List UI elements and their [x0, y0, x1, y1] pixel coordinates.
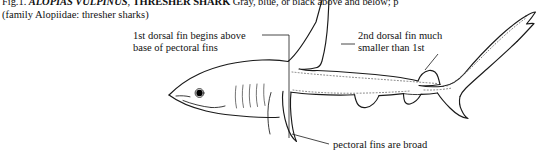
- flank-shading-tail: [447, 18, 526, 86]
- caudal-fin-upper-lobe-tip: [517, 12, 536, 42]
- leader-line-dorsal-fin-1: [262, 35, 289, 138]
- gill-slit-5: [264, 84, 265, 106]
- gill-slit-2: [242, 85, 243, 108]
- shark-body: [169, 0, 536, 142]
- caudal-fin-lower-lobe: [438, 93, 469, 119]
- pectoral-fin-near: [283, 91, 297, 141]
- gill-slit-4: [256, 84, 257, 107]
- pectoral-fin-far: [268, 93, 271, 135]
- gill-slit-1: [235, 86, 236, 108]
- first-dorsal-fin-free-rear-tip: [299, 68, 317, 71]
- mouth-corner: [211, 106, 225, 108]
- dorsal-profile-mid: [317, 71, 418, 82]
- flank-shading-belly: [293, 90, 410, 93]
- gill-slit-3: [249, 85, 250, 108]
- dorsal-profile-front: [169, 60, 288, 95]
- leader-line-pectoral-fins: [292, 134, 329, 144]
- pelvic-fin: [355, 95, 379, 108]
- caudal-peduncle-lower: [421, 93, 438, 94]
- leader-line-dorsal-fin-2-right: [425, 54, 438, 70]
- anal-fin: [404, 94, 422, 104]
- first-dorsal-fin-leading-edge: [288, 0, 322, 62]
- thresher-shark-illustration: [0, 0, 540, 167]
- caudal-peduncle-upper: [443, 16, 526, 86]
- anal-fin-rear-tip: [404, 94, 423, 95]
- second-dorsal-fin-rear-tip: [419, 85, 443, 87]
- gill-slits: [235, 84, 265, 108]
- second-dorsal-fin: [418, 70, 440, 84]
- flank-shading-peduncle: [424, 88, 452, 90]
- eye: [196, 90, 202, 96]
- snout-detail: [176, 96, 190, 97]
- mouth: [183, 101, 211, 108]
- ventral-profile-mid: [379, 94, 404, 96]
- leader-lines: [262, 35, 438, 144]
- figure-container: Fig.1. ALOPIAS VULPINUS, THRESHER SHARK …: [0, 0, 540, 167]
